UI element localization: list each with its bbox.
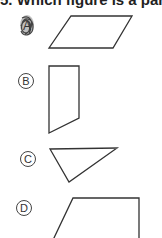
option-b-label: B — [22, 75, 29, 87]
parallelogram-shape — [49, 16, 132, 48]
option-c-label: C — [24, 153, 32, 165]
trapezoid-right-shape — [53, 198, 139, 238]
option-a[interactable]: A — [20, 15, 132, 48]
option-c[interactable]: C — [21, 148, 118, 182]
option-d-label: D — [20, 202, 28, 214]
triangle-shape — [50, 148, 117, 182]
option-a-label: A — [23, 19, 31, 33]
option-d[interactable]: D — [17, 198, 140, 238]
option-b[interactable]: B — [19, 66, 80, 133]
answer-choices-figure: A B C D — [0, 0, 162, 238]
trapezoid-vertical-shape — [49, 66, 79, 133]
scribbled-bubble-a-icon[interactable]: A — [20, 15, 34, 35]
